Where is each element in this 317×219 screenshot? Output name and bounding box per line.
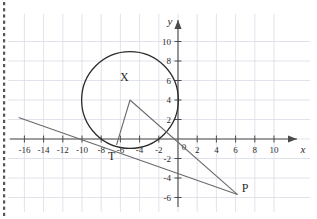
geometry-figure: -16-14-12-10-8-6-4-2246810 108642-2-4-6 … [0,0,317,219]
perforation-dot [3,83,5,86]
perforation-dot [3,207,5,210]
perforation-dot [3,194,5,197]
perforation-dot [3,138,5,141]
x-axis-tick-label: -14 [38,145,50,155]
perforation-dot [3,200,5,203]
tangent-line [19,118,238,195]
x-axis-tick-label: -2 [155,145,163,155]
perforation-dot [3,64,5,67]
y-axis-label: y [167,15,173,27]
y-axis-tick-label: 4 [167,95,172,105]
y-axis-tick-label: -4 [164,173,172,183]
perforation-dot [3,107,5,110]
perforation-dot [3,163,5,166]
x-axis-tick-label: -10 [76,145,88,155]
x-axis-label: x [300,143,306,155]
perforation-dot [3,27,5,30]
perforation-dot [3,188,5,191]
perforation-dot [3,2,5,5]
x-axis-tick-label: 4 [214,145,219,155]
y-axis-tick-label: -2 [164,154,172,164]
perforation-dot [3,45,5,48]
grid-lines [8,14,310,212]
perforation-dot [3,76,5,79]
perforation-dot [3,21,5,24]
x-axis-tick-label: 8 [253,145,258,155]
perforation-dot [3,8,5,11]
perforation-dot [3,14,5,17]
perforation-dot [3,114,5,117]
perforation-dot [3,213,5,216]
perforation-dot [3,182,5,185]
point-label-t: T [108,149,116,163]
perforation-dot [3,151,5,154]
perforation-dot [3,126,5,129]
segment-x-to-t [117,100,130,145]
perforation-dot [3,58,5,61]
perforation-dot [3,157,5,160]
axes-group [10,20,297,207]
perforation-dot [3,176,5,179]
x-axis-tick-labels: -16-14-12-10-8-6-4-2246810 [18,145,279,155]
perforation-dot [3,89,5,92]
point-label-x: X [120,70,129,84]
coordinate-plane-svg: -16-14-12-10-8-6-4-2246810 108642-2-4-6 … [0,0,317,219]
x-axis-tick-label: -12 [57,145,69,155]
segment-x-to-p [130,100,238,195]
perforation-dot [3,169,5,172]
y-axis-tick-label: -6 [164,193,172,203]
perforation-dot [3,33,5,36]
x-axis-tick-label: 6 [233,145,238,155]
perforation-dot [3,95,5,98]
y-axis-tick-label: 8 [167,56,172,66]
x-axis-tick-label: 2 [195,145,200,155]
x-axis-tick-label: -16 [18,145,30,155]
perforation-dot [3,52,5,55]
perforation-dot [3,132,5,135]
perforation-dot [3,101,5,104]
y-axis-arrowhead [174,20,181,29]
y-axis-tick-label: 6 [167,76,172,86]
point-label-p: P [242,181,249,195]
perforation-dot [3,145,5,148]
perforation-dot [3,120,5,123]
x-axis-arrowhead [288,135,297,142]
x-axis-tick-label: 10 [270,145,280,155]
perforation-dot [3,70,5,73]
page-perforation-marks [3,0,6,219]
y-axis-tick-label: 2 [167,115,172,125]
perforation-dot [3,39,5,42]
y-axis-tick-label: 10 [162,37,172,47]
